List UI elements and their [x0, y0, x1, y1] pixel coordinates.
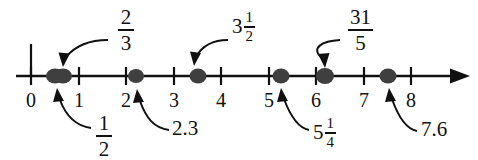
tick-label-1: 1 — [67, 90, 91, 110]
tick-label-6: 6 — [304, 90, 328, 110]
tick-label-4: 4 — [209, 90, 233, 110]
tick-label-7: 7 — [352, 90, 376, 110]
mixed-whole-part: 3 — [232, 16, 244, 37]
fraction-one-half: 1 2 — [96, 112, 112, 160]
callout-thirty-one-fifths: 31 5 — [348, 6, 373, 54]
arrow-path-two-thirds — [66, 40, 108, 57]
fraction-denominator: 2 — [244, 29, 256, 44]
fraction-numerator: 31 — [348, 6, 373, 28]
tick-label-2: 2 — [114, 90, 138, 110]
callout-two-point-three: 2.3 — [172, 118, 198, 139]
fraction-numerator: 1 — [244, 10, 256, 25]
point-two-point-three — [128, 69, 144, 83]
arrowhead-seven-point-six-icon — [385, 88, 396, 102]
decimal-value: 7.6 — [421, 119, 447, 140]
fraction-thirty-one-fifths: 31 5 — [348, 6, 373, 54]
fraction-numerator: 2 — [119, 6, 134, 28]
fraction-denominator: 4 — [325, 135, 337, 150]
callout-two-thirds: 2 3 — [118, 6, 134, 54]
arrowhead-three-and-half-icon — [190, 52, 201, 67]
arrowhead-thirty-one-fifths-icon — [318, 53, 330, 68]
point-three-and-half — [190, 69, 207, 84]
point-thirty-one-fifths — [316, 68, 334, 84]
arrow-path-three-and-half — [196, 40, 228, 57]
arrowhead-two-thirds-icon — [59, 53, 71, 68]
callout-three-and-half: 3 1 2 — [232, 10, 255, 44]
fraction-one-half: 1 2 — [244, 10, 256, 44]
callout-five-and-quarter: 5 1 4 — [313, 116, 336, 150]
point-two-thirds — [54, 69, 72, 84]
mixed-whole-part: 5 — [313, 122, 325, 143]
leader-arrowheads-above — [59, 52, 330, 69]
fraction-numerator: 1 — [325, 116, 337, 131]
point-five-and-quarter — [273, 69, 290, 84]
axis-arrowhead-icon — [450, 69, 470, 84]
arrowhead-one-half-icon — [53, 88, 64, 102]
tick-label-5: 5 — [257, 90, 281, 110]
callout-one-half: 1 2 — [96, 112, 112, 160]
callout-seven-point-six: 7.6 — [421, 119, 447, 140]
tick-label-3: 3 — [162, 90, 186, 110]
decimal-value: 2.3 — [172, 118, 198, 139]
leader-arrows-above — [66, 40, 340, 58]
point-seven-point-six — [380, 69, 397, 84]
fraction-denominator: 3 — [119, 32, 134, 54]
tick-label-0: 0 — [19, 90, 43, 110]
fraction-numerator: 1 — [97, 112, 112, 134]
fraction-denominator: 5 — [353, 32, 368, 54]
number-line-figure: 0 1 2 3 4 5 6 7 8 2 3 3 1 2 31 5 1 2 — [0, 0, 478, 160]
fraction-one-quarter: 1 4 — [325, 116, 337, 150]
fraction-two-thirds: 2 3 — [118, 6, 134, 54]
fraction-denominator: 2 — [97, 138, 112, 160]
tick-label-8: 8 — [399, 90, 423, 110]
